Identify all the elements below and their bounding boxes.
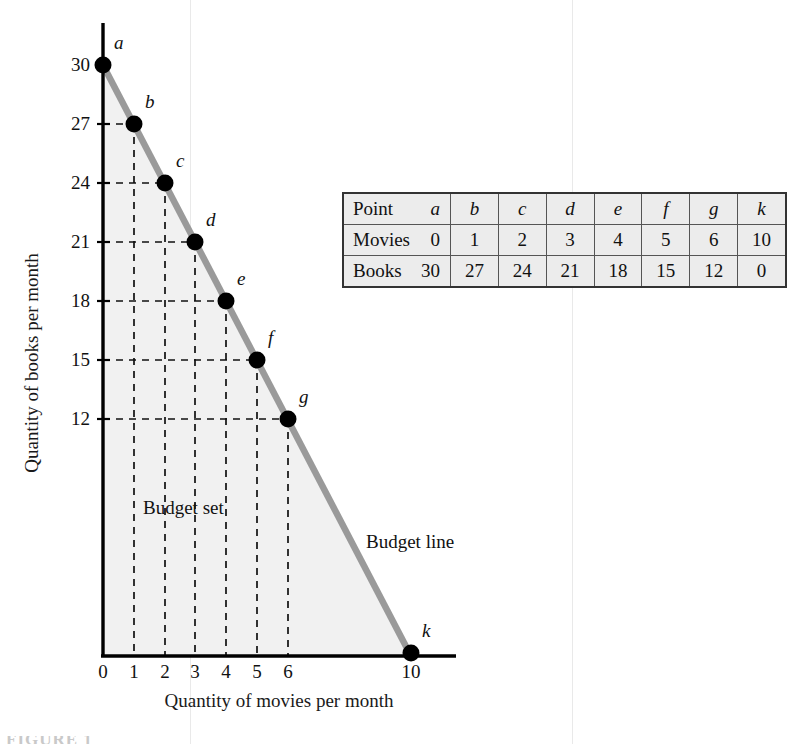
y-tick-label-30: 30 (50, 54, 90, 76)
table-cell: 27 (451, 256, 499, 288)
table-cell-first: a (414, 193, 451, 225)
y-tick-label-24: 24 (50, 172, 90, 194)
table-cell: c (498, 193, 546, 225)
point-label-b: b (145, 91, 155, 113)
y-tick-label-18: 18 (50, 290, 90, 312)
y-tick-label-27: 27 (50, 113, 90, 135)
data-point-c[interactable] (157, 175, 174, 192)
point-label-k: k (422, 620, 430, 642)
y-tick-label-21: 21 (50, 231, 90, 253)
budget-line-chart (0, 0, 787, 744)
table-cell: 18 (594, 256, 642, 288)
table-cell: 1 (451, 225, 499, 256)
y-axis-title: Quantity of books per month (21, 213, 43, 513)
table-cell: 6 (690, 225, 738, 256)
table-row: Point a b c d e f g k (343, 193, 786, 225)
table-cell: 0 (738, 256, 786, 288)
point-label-c: c (176, 150, 184, 172)
data-point-d[interactable] (187, 234, 204, 251)
table-cell: 2 (498, 225, 546, 256)
table-cell: 24 (498, 256, 546, 288)
table-row-header: Point (343, 193, 414, 225)
budget-set-label: Budget set (143, 497, 224, 519)
table-cell: f (642, 193, 690, 225)
table-cell: 21 (546, 256, 594, 288)
table-cell: k (738, 193, 786, 225)
data-point-g[interactable] (280, 411, 297, 428)
table-cell: d (546, 193, 594, 225)
table-cell: e (594, 193, 642, 225)
figure-caption-partial: FIGURE 1 (6, 736, 156, 744)
table-body: Point a b c d e f g k Movies 0 1 2 3 4 5… (343, 193, 786, 287)
point-label-e: e (237, 268, 245, 290)
data-point-f[interactable] (249, 352, 266, 369)
table-row: Books 30 27 24 21 18 15 12 0 (343, 256, 786, 288)
table-row-header: Books (343, 256, 414, 288)
data-point-a[interactable] (95, 57, 112, 74)
y-tick-label-12: 12 (50, 408, 90, 430)
table-cell: 10 (738, 225, 786, 256)
data-point-k[interactable] (403, 645, 420, 662)
x-tick-label-10: 10 (391, 661, 431, 683)
table-cell: 4 (594, 225, 642, 256)
table-cell: 15 (642, 256, 690, 288)
point-label-a: a (114, 32, 124, 54)
table-cell: 12 (690, 256, 738, 288)
point-label-g: g (299, 386, 309, 408)
x-tick-label-6: 6 (268, 661, 308, 683)
table-cell-first: 0 (414, 225, 451, 256)
x-axis-title: Quantity of movies per month (103, 690, 455, 712)
table-cell-first: 30 (414, 256, 451, 288)
data-point-e[interactable] (218, 293, 235, 310)
budget-line-label: Budget line (366, 531, 454, 553)
point-data-table: Point a b c d e f g k Movies 0 1 2 3 4 5… (342, 192, 787, 288)
y-tick-label-15: 15 (50, 349, 90, 371)
table-row: Movies 0 1 2 3 4 5 6 10 (343, 225, 786, 256)
table-cell: 5 (642, 225, 690, 256)
table-cell: b (451, 193, 499, 225)
table-cell: g (690, 193, 738, 225)
table-cell: 3 (546, 225, 594, 256)
point-label-f: f (268, 327, 273, 349)
data-point-b[interactable] (126, 116, 143, 133)
table-row-header: Movies (343, 225, 414, 256)
point-label-d: d (206, 209, 216, 231)
